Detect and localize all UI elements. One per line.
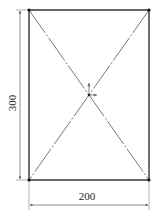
vertex-top-right[interactable]	[147, 8, 150, 11]
origin-point[interactable]	[88, 94, 91, 97]
horizontal-dimension[interactable]: 200	[29, 181, 149, 210]
sketch-canvas[interactable]: 300 200	[0, 0, 160, 219]
vertical-dimension[interactable]: 300	[6, 10, 28, 180]
horizontal-dimension-label[interactable]: 200	[79, 190, 96, 202]
vertical-dimension-label[interactable]: 300	[6, 94, 18, 111]
